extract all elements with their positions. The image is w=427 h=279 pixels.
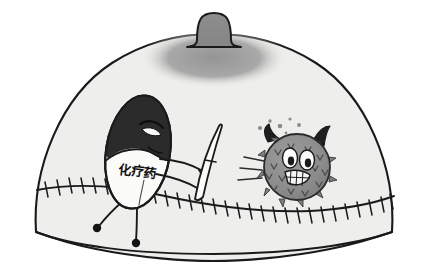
illustration-stage: 化疗药 Chemotherapy drug capsule attacking … bbox=[0, 0, 427, 279]
capsule-foot-right bbox=[132, 239, 140, 247]
cartoon-illustration: 化疗药 bbox=[0, 0, 427, 279]
virus-pupil-left bbox=[288, 157, 294, 166]
capsule-foot-left bbox=[93, 224, 101, 232]
virus-pupil-right bbox=[305, 159, 311, 168]
